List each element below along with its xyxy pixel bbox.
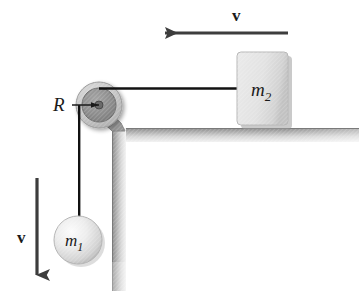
velocity-arrow-top-label: v	[232, 6, 241, 25]
block-m2: m2	[237, 52, 292, 129]
ball-m1-label-base: m	[65, 231, 77, 250]
table-leg-bottom-fade	[112, 262, 126, 291]
diagram-canvas: m2 m1 R v v	[0, 0, 359, 307]
velocity-arrow-left: v	[17, 178, 37, 275]
table	[112, 128, 359, 291]
radius-label: R	[52, 94, 65, 115]
table-top-fade	[112, 128, 359, 142]
velocity-arrow-left-label: v	[17, 228, 26, 247]
physics-diagram: m2 m1 R v v	[0, 0, 359, 307]
ball-m1: m1	[54, 216, 105, 267]
block-m2-label-subscript: 2	[265, 89, 272, 104]
velocity-arrow-top: v	[165, 6, 288, 33]
ball-m1-label-subscript: 1	[77, 240, 83, 254]
block-m2-label-base: m	[251, 79, 265, 100]
